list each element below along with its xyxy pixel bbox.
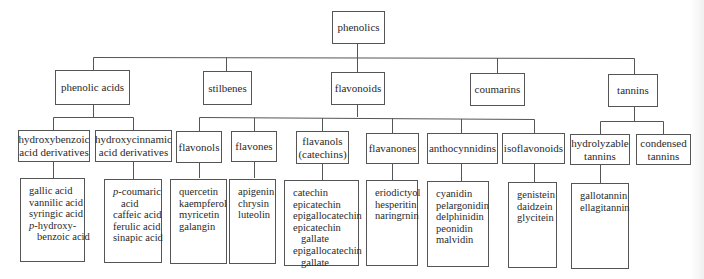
node-label: flavanones — [369, 142, 417, 155]
compound: epicatechin — [293, 199, 358, 211]
node-flavonols: flavonols — [176, 131, 222, 163]
compound: sinapic acid — [113, 232, 161, 244]
leaf-hydroxycinnamic-examples: p-coumaric acid caffeic acid ferulic aci… — [104, 179, 162, 263]
compound: benzoic acid — [29, 231, 84, 243]
para-prefix: p — [113, 186, 118, 197]
node-label: anthocynnidins — [429, 142, 496, 155]
compound: pelargonidin — [436, 200, 488, 212]
compound: hesperitin — [375, 199, 417, 211]
leaf-hydrolyzable-tannins-examples: gallotannin ellagitannin — [571, 183, 629, 269]
node-label: isoflavonoids — [504, 142, 563, 155]
compound: epigallocatechin — [293, 210, 358, 222]
leaf-flavones-examples: apigenin chrysin luteolin — [229, 179, 276, 264]
compound: genistein — [517, 189, 556, 201]
node-label: flavonoids — [335, 82, 381, 95]
leaf-isoflavonoids-examples: genistein daidzein glycitein — [508, 182, 557, 268]
node-flavanones: flavanones — [366, 133, 419, 164]
node-flavones: flavones — [231, 131, 277, 162]
node-flavonoids: flavonoids — [331, 72, 385, 105]
compound: caffeic acid — [113, 209, 161, 221]
compound: syringic acid — [29, 208, 84, 220]
compound: daidzein — [517, 201, 556, 213]
compound: gallotannin — [580, 190, 628, 202]
node-phenolics: phenolics — [332, 11, 385, 44]
leaf-flavonols-examples: quercetin kaempferol myricetin galangin — [170, 179, 227, 264]
node-hydrolyzable-tannins: hydrolyzable tannins — [570, 134, 630, 165]
leaf-flavanols-examples: catechin epicatechin epigallocatechin ep… — [284, 180, 359, 266]
node-label: hydroxybenzoic acid derivatives — [19, 133, 90, 159]
node-label: flavonols — [179, 141, 220, 154]
leaf-flavanones-examples: eriodictyol hesperitin naringrnin — [366, 180, 418, 266]
node-label: coumarins — [475, 83, 521, 96]
compound: gallate — [293, 233, 358, 245]
node-label: flavanols (catechins) — [298, 135, 346, 161]
node-label: hydroxycinnamic acid derivatives — [95, 133, 172, 159]
compound: catechin — [293, 187, 358, 199]
compound: gallic acid — [29, 185, 84, 197]
compound: naringrnin — [375, 210, 417, 222]
node-label: phenolic acids — [61, 81, 124, 94]
node-isoflavonoids: isoflavonoids — [502, 133, 565, 164]
node-label: phenolics — [337, 21, 379, 34]
para-prefix: p — [29, 220, 34, 231]
compound: galangin — [179, 221, 226, 233]
compound: vannilic acid — [29, 197, 84, 209]
compound: p-coumaric — [113, 186, 161, 198]
node-hydroxycinnamic-acid-derivatives: hydroxycinnamic acid derivatives — [95, 130, 172, 162]
compound: epigallocatechin — [293, 245, 358, 257]
compound: kaempferol — [179, 198, 226, 210]
node-phenolic-acids: phenolic acids — [55, 70, 130, 105]
node-flavanols-catechins: flavanols (catechins) — [296, 131, 349, 164]
node-anthocynnidins: anthocynnidins — [427, 133, 498, 164]
compound: peonidin — [436, 223, 488, 235]
node-tannins: tannins — [608, 74, 658, 107]
node-label: stilbenes — [208, 82, 247, 95]
node-label: condensed tannins — [640, 137, 686, 163]
node-label: tannins — [617, 84, 649, 97]
compound: quercetin — [179, 186, 226, 198]
node-label: flavones — [235, 140, 272, 153]
compound: epicatechin — [293, 222, 358, 234]
compound: p-hydroxy- — [29, 220, 84, 232]
compound: acid — [113, 198, 161, 210]
compound: eriodictyol — [375, 187, 417, 199]
compound: myricetin — [179, 209, 226, 221]
leaf-hydroxybenzoic-examples: gallic acid vannilic acid syringic acid … — [20, 178, 85, 262]
node-condensed-tannins: condensed tannins — [636, 134, 691, 165]
node-label: hydrolyzable tannins — [571, 137, 628, 163]
compound: ferulic acid — [113, 221, 161, 233]
compound: delphinidin — [436, 211, 488, 223]
compound: ellagitannin — [580, 202, 628, 214]
compound: cyanidin — [436, 188, 488, 200]
compound: chrysin — [238, 198, 275, 210]
compound: glycitein — [517, 212, 556, 224]
node-coumarins: coumarins — [470, 73, 525, 106]
leaf-anthocynnidins-examples: cyanidin pelargonidin delphinidin peonid… — [427, 181, 489, 267]
node-hydroxybenzoic-acid-derivatives: hydroxybenzoic acid derivatives — [18, 130, 90, 162]
compound: gallate — [293, 257, 358, 269]
compound: malvidin — [436, 234, 488, 246]
compound: apigenin — [238, 186, 275, 198]
node-stilbenes: stilbenes — [203, 71, 252, 105]
compound: luteolin — [238, 209, 275, 221]
